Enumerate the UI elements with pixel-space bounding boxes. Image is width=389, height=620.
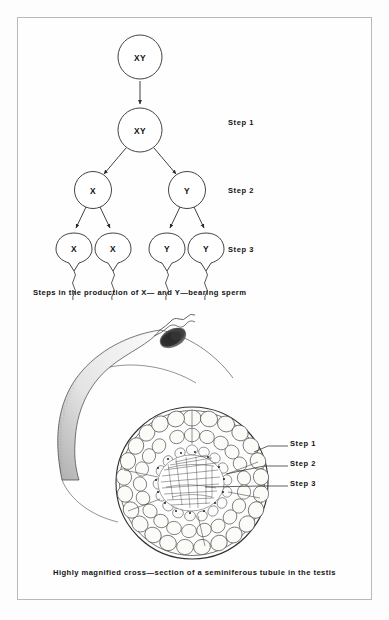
step-label-tubule-1: Step 1 — [290, 439, 316, 448]
step-label-tubule-3: Step 3 — [290, 479, 316, 488]
step-label-tubule-2: Step 2 — [290, 459, 316, 468]
caption-pedigree: Steps in the production of X— and Y—bear… — [33, 288, 246, 297]
step-label-top-3: Step 3 — [228, 245, 254, 254]
text-layer: Step 1 Step 2 Step 3 Steps in the produc… — [0, 0, 389, 620]
caption-tubule: Highly magnified cross—section of a semi… — [53, 568, 336, 577]
step-label-top-1: Step 1 — [228, 118, 254, 127]
figure-page: XY XY X Y — [0, 0, 389, 620]
step-label-top-2: Step 2 — [228, 186, 254, 195]
